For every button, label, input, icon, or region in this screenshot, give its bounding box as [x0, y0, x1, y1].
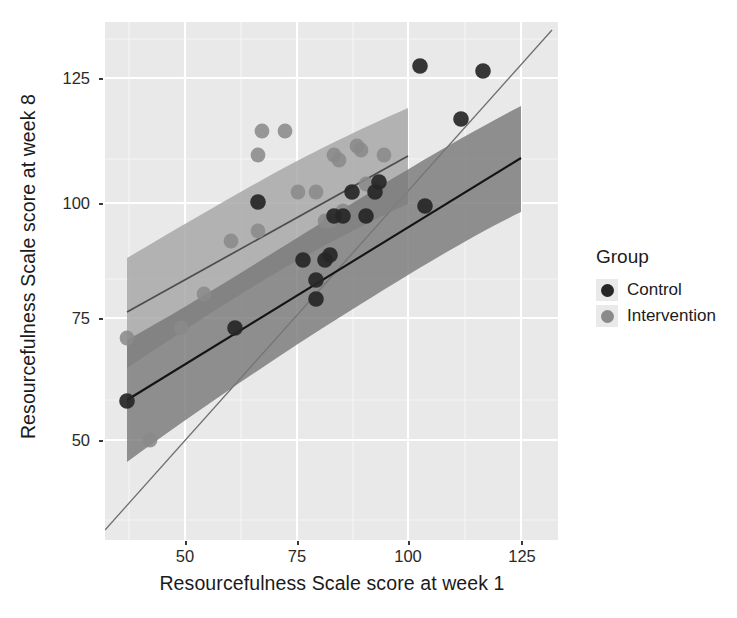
y-axis-title: Resourcefulness Scale score at week 8	[17, 7, 40, 527]
x-tick-mark-125	[521, 541, 523, 545]
data-point	[197, 287, 212, 302]
data-point	[377, 148, 392, 163]
legend-item-control[interactable]: Control	[596, 277, 736, 303]
plot-panel	[105, 22, 558, 540]
data-point	[322, 247, 338, 263]
data-point	[475, 63, 491, 79]
data-point	[119, 393, 135, 409]
x-tick-label-75: 75	[267, 547, 327, 566]
legend-swatch-intervention	[596, 305, 618, 327]
data-point	[453, 111, 469, 127]
data-point	[417, 198, 433, 214]
data-point	[358, 208, 374, 224]
y-tick-mark-100	[99, 203, 103, 205]
data-point	[143, 433, 158, 448]
x-axis-title: Resourcefulness Scale score at week 1	[105, 572, 559, 595]
data-point	[332, 153, 347, 168]
y-tick-mark-50	[99, 440, 103, 442]
data-point	[224, 234, 239, 249]
data-point	[308, 291, 324, 307]
data-point	[412, 58, 428, 74]
x-axis-tick-labels: 50 75 100 125	[0, 547, 737, 573]
data-point	[251, 148, 266, 163]
data-point	[278, 124, 293, 139]
circle-icon	[601, 310, 614, 323]
data-point	[227, 320, 243, 336]
legend-swatch-control	[596, 279, 618, 301]
plot-canvas	[105, 22, 558, 540]
y-tick-mark-125	[99, 78, 103, 80]
data-point	[291, 185, 306, 200]
legend: Group Control Intervention	[596, 246, 736, 329]
data-point	[250, 194, 266, 210]
legend-title: Group	[596, 246, 736, 268]
x-tick-label-125: 125	[492, 547, 552, 566]
x-tick-mark-50	[185, 541, 187, 545]
data-point	[371, 174, 387, 190]
legend-label-control: Control	[627, 280, 682, 300]
data-point	[255, 124, 270, 139]
y-axis-tick-labels: 125 100 75 50	[40, 0, 90, 618]
data-point	[308, 272, 324, 288]
x-tick-mark-75	[297, 541, 299, 545]
data-point	[354, 143, 369, 158]
data-point	[120, 331, 135, 346]
data-point	[174, 321, 189, 336]
data-point	[251, 224, 266, 239]
data-point	[295, 252, 311, 268]
data-point	[309, 185, 324, 200]
legend-label-intervention: Intervention	[627, 306, 716, 326]
data-point	[335, 208, 351, 224]
chart-figure: Resourcefulness Scale score at week 8 12…	[0, 0, 737, 618]
x-tick-label-50: 50	[155, 547, 215, 566]
y-tick-label-75: 75	[42, 309, 90, 328]
data-point	[344, 184, 360, 200]
y-tick-label-100: 100	[42, 194, 90, 213]
legend-item-intervention[interactable]: Intervention	[596, 303, 736, 329]
x-tick-label-100: 100	[378, 547, 438, 566]
circle-icon	[601, 284, 614, 297]
x-tick-mark-100	[408, 541, 410, 545]
y-tick-label-125: 125	[42, 69, 90, 88]
y-tick-label-50: 50	[42, 431, 90, 450]
y-tick-mark-75	[99, 318, 103, 320]
